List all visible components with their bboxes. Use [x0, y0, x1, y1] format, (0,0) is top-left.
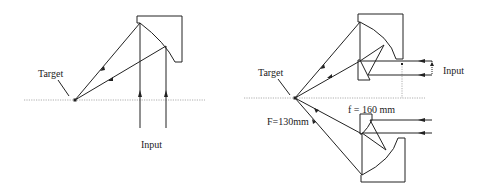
arrow-up-icon: [430, 62, 434, 66]
upper-reflected-ray-2: [295, 61, 360, 98]
target-point: [294, 97, 297, 100]
input-label: Input: [443, 65, 464, 76]
lower-secondary-mirror: [360, 114, 372, 134]
lower-parabolic-mirror: [361, 134, 405, 182]
parabolic-mirror: [137, 16, 182, 62]
arrow-icon: [320, 64, 325, 69]
target-label: Target: [258, 67, 283, 78]
input-label: Input: [141, 139, 162, 150]
target-label: Target: [38, 68, 63, 79]
arrow-up-icon: [164, 90, 168, 97]
upper-reflected-ray-1: [295, 22, 360, 98]
focal-length-small-label: f = 160 mm: [348, 104, 395, 115]
left-diagram: Target Input: [24, 16, 205, 150]
lower-internal-ray-2: [362, 133, 386, 150]
upper-internal-ray-2: [368, 45, 384, 75]
arrow-left-icon: [418, 59, 425, 63]
arrow-icon: [314, 108, 319, 113]
target-point: [74, 99, 77, 102]
arrow-left-icon: [418, 131, 425, 135]
arrow-left-icon: [418, 73, 425, 77]
target-leader: [58, 80, 69, 96]
arrow-icon: [327, 74, 332, 78]
upper-secondary-mirror: [358, 60, 370, 80]
arrow-up-icon: [138, 90, 142, 97]
right-diagram: Target Input F=130mm f = 160 mm: [244, 14, 464, 182]
marker-point: [401, 63, 403, 65]
focal-length-big-label: F=130mm: [267, 116, 309, 127]
target-leader: [278, 79, 290, 95]
reflected-ray-1: [75, 23, 140, 100]
optics-diagram: Target Input: [0, 0, 487, 193]
upper-internal-ray-1: [360, 45, 384, 61]
reflected-ray-2: [75, 46, 166, 100]
arrow-left-icon: [418, 118, 425, 122]
lower-internal-ray-1: [370, 120, 386, 150]
